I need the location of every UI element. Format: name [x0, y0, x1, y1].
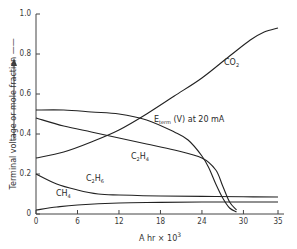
x-tick-label: 0 [26, 218, 46, 226]
y-tick-label: 0 [11, 210, 31, 218]
series-label-c2h4: C2H4 [131, 153, 149, 162]
series-line-c2h6 [36, 174, 278, 197]
series-label-ch4: CH4 [56, 190, 71, 199]
x-tick-label: 24 [192, 218, 212, 226]
series-label-co2: CO2 [224, 59, 239, 68]
x-tick-label: 30 [233, 218, 253, 226]
series-label-c2h6: C2H6 [86, 175, 104, 184]
series-label-e-term-v-at-20-ma: Eterm (V) at 20 mA [154, 116, 224, 125]
x-tick-label: 35 [268, 218, 288, 226]
series-line-ch4 [36, 202, 278, 210]
x-axis-title-exponent: 3 [177, 231, 181, 238]
y-tick-label: 1.0 [11, 10, 31, 18]
x-axis-title: A hr × 103 [120, 231, 200, 243]
x-axis-title-main: A hr × 10 [139, 234, 177, 243]
x-tick-label: 6 [67, 218, 87, 226]
x-tick-label: 12 [109, 218, 129, 226]
series-line-co2 [36, 28, 278, 158]
chart-plot [0, 0, 297, 249]
x-tick-label: 18 [150, 218, 170, 226]
y-axis-title: Terminal voltage or mole fraction —— [9, 60, 18, 190]
